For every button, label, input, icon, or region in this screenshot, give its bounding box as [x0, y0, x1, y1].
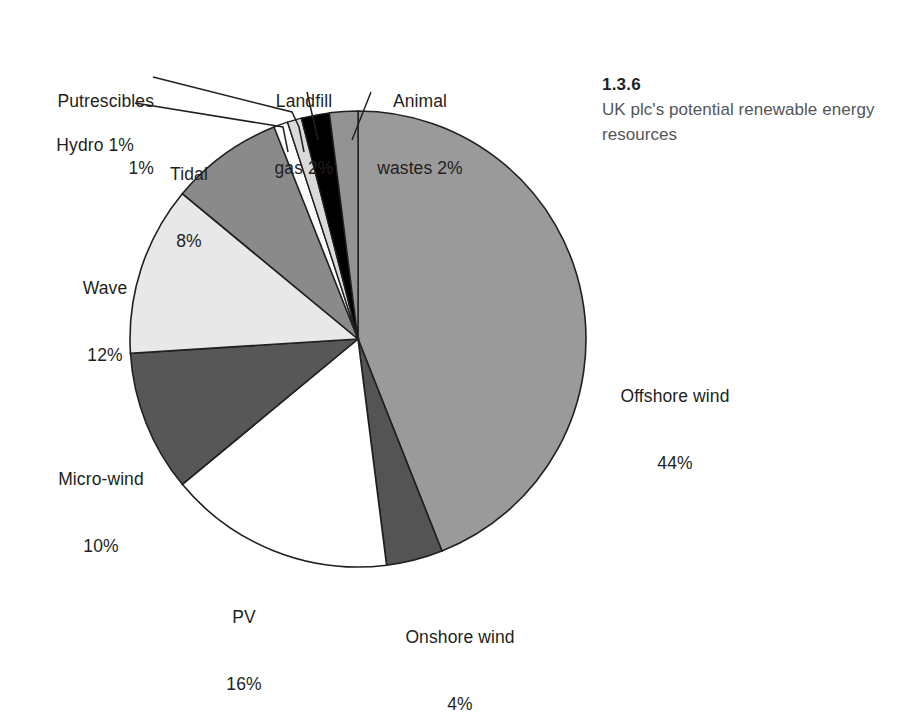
figure-caption: 1.3.6 UK plc's potential renewable energ…	[602, 75, 902, 147]
pie-label-offshore-wind: Offshore wind 44%	[601, 340, 749, 519]
pie-label-landfill-gas-name: Landfill	[241, 90, 367, 112]
pie-label-tidal-value: 8%	[141, 230, 237, 252]
pie-label-micro-wind-name: Micro-wind	[33, 468, 169, 490]
pie-label-onshore-wind: Onshore wind 4%	[386, 581, 534, 714]
pie-label-tidal-name: Tidal	[141, 163, 237, 185]
pie-label-hydro: Hydro 1%	[14, 89, 134, 201]
pie-label-animal-wastes: Animal wastes 2%	[356, 45, 484, 224]
pie-label-animal-wastes-value: wastes 2%	[356, 157, 484, 179]
pie-label-offshore-wind-value: 44%	[601, 452, 749, 474]
pie-label-micro-wind-value: 10%	[33, 535, 169, 557]
pie-label-micro-wind: Micro-wind 10%	[33, 423, 169, 602]
pie-label-landfill-gas: Landfill gas 2%	[241, 45, 367, 224]
pie-label-onshore-wind-name: Onshore wind	[386, 626, 534, 648]
pie-label-pv-name: PV	[194, 606, 294, 628]
figure-number: 1.3.6	[602, 75, 902, 95]
pie-label-hydro-name: Hydro 1%	[14, 134, 134, 156]
pie-label-wave-value: 12%	[56, 344, 154, 366]
pie-label-pv-value: 16%	[194, 673, 294, 695]
pie-label-tidal: Tidal 8%	[141, 118, 237, 297]
pie-label-pv: PV 16%	[194, 561, 294, 714]
pie-label-animal-wastes-name: Animal	[356, 90, 484, 112]
pie-label-landfill-gas-value: gas 2%	[241, 157, 367, 179]
pie-label-wave-name: Wave	[56, 277, 154, 299]
pie-label-wave: Wave 12%	[56, 232, 154, 411]
pie-label-offshore-wind-name: Offshore wind	[601, 385, 749, 407]
pie-label-onshore-wind-value: 4%	[386, 693, 534, 714]
figure-caption-text: UK plc's potential renewable energy reso…	[602, 98, 902, 147]
